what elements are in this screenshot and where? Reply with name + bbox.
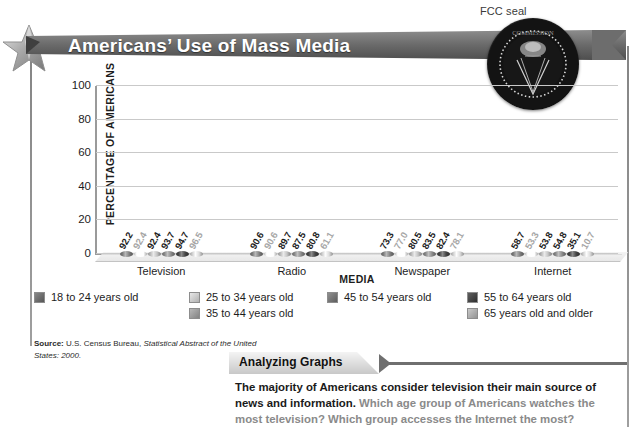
y-axis-tick: 100 [72,79,91,91]
legend-column: 55 to 64 years old65 years old and older [467,291,617,319]
y-axis-tick: 80 [78,113,91,125]
analyzing-graphs-label: Analyzing Graphs [239,355,343,369]
legend-swatch [189,308,200,319]
bar-chart: PERCENTAGE OF AMERICANS 020406080100 92.… [34,78,619,283]
bar-value-label: 61.1 [317,230,335,251]
analyzing-graphs-tab: Analyzing Graphs [229,352,627,374]
bar-groups: 92.292.492.493.794.796.5Television90.690… [96,86,618,254]
legend-label: 35 to 44 years old [206,307,293,319]
legend-swatch [34,292,45,303]
bar-group-radio: 90.690.689.787.580.861.1Radio [227,86,358,254]
legend-label: 45 to 54 years old [344,291,431,303]
y-axis-tick: 20 [78,213,91,225]
bar-group-internet: 58.753.353.854.835.110.7Internet [488,86,619,254]
bar-group-newspaper: 73.377.080.583.582.478.1Newspaper [357,86,488,254]
legend-item[interactable]: 18 to 24 years old [34,291,189,303]
page-border-left [30,46,32,346]
legend-label: 55 to 64 years old [484,291,571,303]
source-label: Source: [34,339,64,348]
legend-column: 18 to 24 years old [34,291,189,319]
legend-label: 18 to 24 years old [51,291,138,303]
analyzing-graphs-body: The majority of Americans consider telev… [229,376,627,427]
bar-value-label: 96.5 [187,230,205,251]
legend-swatch [467,292,478,303]
legend-item[interactable]: 35 to 44 years old [189,307,327,319]
page-border-right [627,46,629,427]
fcc-seal-caption: FCC seal [480,5,527,17]
source-text: U.S. Census Bureau, [64,339,144,348]
legend-column: 25 to 34 years old35 to 44 years old [189,291,327,319]
y-axis-tick: 40 [78,180,91,192]
legend-item[interactable]: 65 years old and older [467,307,617,319]
legend-item[interactable]: 55 to 64 years old [467,291,617,303]
y-axis-tick: 0 [85,247,91,259]
chart-legend: 18 to 24 years old25 to 34 years old35 t… [34,291,624,319]
legend-item[interactable]: 45 to 54 years old [327,291,467,303]
svg-text:COMMISSION: COMMISSION [512,29,554,36]
legend-swatch [327,292,338,303]
legend-swatch [467,308,478,319]
legend-swatch [189,292,200,303]
bar-value-label: 78.1 [448,230,466,251]
legend-label: 65 years old and older [484,307,593,319]
bar-group-television: 92.292.492.493.794.796.5Television [96,86,227,254]
legend-label: 25 to 34 years old [206,291,293,303]
legend-column: 45 to 54 years old [327,291,467,319]
y-axis-tick: 60 [78,146,91,158]
legend-item[interactable]: 25 to 34 years old [189,291,327,303]
plot-area: 020406080100 92.292.492.493.794.796.5Tel… [96,86,618,254]
x-axis-title: MEDIA [96,273,618,285]
